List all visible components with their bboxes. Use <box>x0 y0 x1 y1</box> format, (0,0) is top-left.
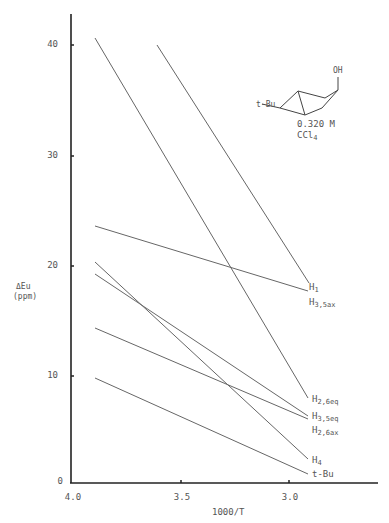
series-label-h26ax: H2,6ax <box>312 425 339 438</box>
series-label-h1: H1 <box>309 282 319 295</box>
y-tick-30: 30 <box>28 150 58 160</box>
tbu-group-label: t-Bu <box>256 100 275 110</box>
y-tick-0: 0 <box>33 476 63 486</box>
series-label-h4: H4 <box>312 455 322 468</box>
line-h35ax <box>95 226 308 291</box>
solvent-sub: 4 <box>313 134 317 142</box>
series-lines <box>95 38 309 474</box>
line-h26eq <box>95 38 308 398</box>
oh-group-label: OH <box>333 66 343 76</box>
x-tick-3-5: 3.5 <box>167 492 197 502</box>
concentration-label: 0.320 M <box>297 119 335 129</box>
y-tick-10: 10 <box>28 370 58 380</box>
y-axis-title-line2: (ppm) <box>13 292 37 302</box>
series-label-h26eq: H2,6eq <box>312 394 339 407</box>
chart-plot <box>0 0 389 523</box>
x-axis-title: 1000/T <box>212 507 245 517</box>
line-h26ax <box>95 328 308 419</box>
line-h35eq <box>95 274 308 416</box>
line-h4 <box>95 262 308 459</box>
series-label-h35ax: H3,5ax <box>309 297 336 310</box>
y-axis-title-line1: ΔEu <box>16 282 30 292</box>
y-tick-20: 20 <box>28 260 58 270</box>
line-h1 <box>157 45 309 283</box>
series-label-h35eq: H3,5eq <box>312 411 339 424</box>
y-tick-40: 40 <box>28 39 58 49</box>
line-tbu <box>95 378 308 474</box>
solvent-label: CCl4 <box>297 130 317 143</box>
series-label-tbu: t-Bu <box>312 469 334 479</box>
solvent-main: CCl <box>297 130 313 140</box>
x-tick-4-0: 4.0 <box>58 492 88 502</box>
x-tick-3-0: 3.0 <box>275 492 305 502</box>
